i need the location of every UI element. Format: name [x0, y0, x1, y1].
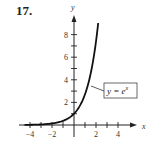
x-tick-label: 4 — [116, 130, 120, 139]
equation-label: y = ex — [106, 85, 129, 96]
x-axis-label: x — [141, 122, 146, 131]
y-tick-label: 2 — [64, 98, 68, 107]
x-axis-arrow-icon — [130, 123, 137, 128]
y-tick-label: 4 — [64, 76, 68, 85]
x-tick-label: −2 — [48, 130, 57, 139]
y-axis-label: y — [70, 3, 75, 12]
annotation-leader — [91, 86, 104, 91]
axes — [19, 15, 137, 137]
x-tick-label: 2 — [94, 130, 98, 139]
exp-curve — [25, 23, 99, 125]
y-tick-label: 8 — [64, 31, 68, 40]
exponential-graph: 17. −4−2242468 y x y = ex — [0, 0, 151, 166]
y-tick-label: 6 — [64, 53, 68, 62]
problem-number: 17. — [16, 3, 32, 18]
y-axis-arrow-icon — [72, 15, 77, 22]
x-tick-label: −4 — [26, 130, 35, 139]
